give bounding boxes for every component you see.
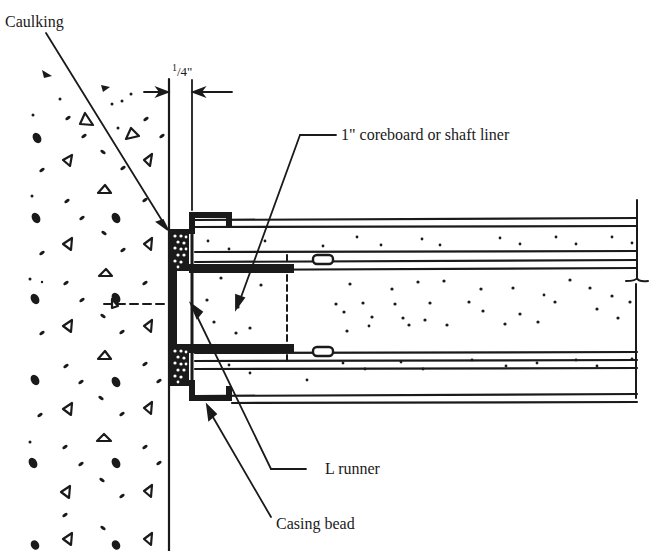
label-l-runner: L runner	[325, 461, 380, 477]
casing-bead-leader	[207, 405, 271, 517]
l-runner-flanges	[189, 264, 294, 353]
concrete-triangles	[61, 113, 152, 545]
label-coreboard: 1" coreboard or shaft liner	[341, 127, 509, 143]
l-runner-leader	[191, 304, 306, 469]
dim-denominator: /4"	[177, 64, 192, 79]
coreboard-leader	[236, 135, 336, 309]
board-layer-lines	[195, 218, 637, 403]
casing-bead-top	[189, 212, 232, 234]
label-casing-bead: Casing bead	[276, 516, 355, 532]
l-runner-web	[170, 271, 177, 344]
gap-dimension	[144, 80, 232, 210]
label-gap-dimension: 1/4"	[172, 63, 192, 78]
label-caulking: Caulking	[5, 14, 64, 30]
casing-bead-bottom	[189, 380, 232, 401]
concrete-aggregate-pattern	[27, 70, 166, 551]
caulking-leader	[46, 33, 168, 230]
